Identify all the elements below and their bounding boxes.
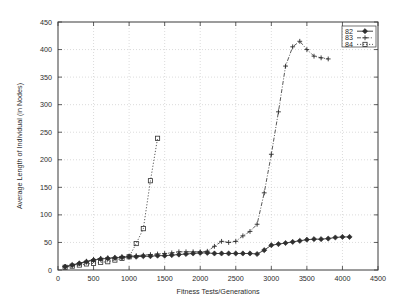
data-point-marker xyxy=(233,239,238,244)
x-tick-label: 500 xyxy=(88,274,100,283)
y-tick-label: 250 xyxy=(40,128,52,137)
chart-legend: 828384 xyxy=(342,26,376,49)
series-84 xyxy=(63,136,160,269)
data-point-marker xyxy=(262,190,267,195)
x-tick-label: 4500 xyxy=(370,274,386,283)
data-point-marker xyxy=(219,239,224,244)
x-tick-label: 3500 xyxy=(299,274,315,283)
y-tick-label: 150 xyxy=(40,183,52,192)
data-point-marker xyxy=(240,251,245,256)
data-point-marker xyxy=(311,237,316,242)
series-line-84 xyxy=(65,138,157,267)
data-point-marker xyxy=(340,234,345,239)
y-tick-label: 0 xyxy=(48,266,52,275)
data-point-marker xyxy=(226,251,231,256)
data-point-marker xyxy=(363,35,368,40)
data-point-marker xyxy=(255,251,260,256)
x-axis-tick-labels: 050010001500200025003000350040004500 xyxy=(56,274,386,283)
data-point-marker xyxy=(269,243,274,248)
data-series-group xyxy=(63,39,353,269)
data-point-marker xyxy=(247,251,252,256)
y-tick-label: 300 xyxy=(40,100,52,109)
data-point-marker xyxy=(276,109,281,114)
y-tick-label: 50 xyxy=(44,238,52,247)
data-point-marker xyxy=(283,240,288,245)
data-point-marker xyxy=(362,29,367,34)
data-point-marker xyxy=(326,57,331,62)
data-point-marker xyxy=(347,234,352,239)
data-point-marker xyxy=(319,55,324,60)
series-83 xyxy=(63,39,331,269)
data-point-marker xyxy=(212,251,217,256)
data-point-marker xyxy=(333,235,338,240)
y-tick-label: 350 xyxy=(40,73,52,82)
data-point-marker xyxy=(283,64,288,69)
data-point-marker xyxy=(70,263,75,268)
x-tick-label: 3000 xyxy=(263,274,279,283)
series-line-83 xyxy=(65,41,328,266)
x-tick-label: 2000 xyxy=(192,274,208,283)
data-point-marker xyxy=(269,152,274,157)
data-point-marker xyxy=(219,251,224,256)
y-tick-label: 100 xyxy=(40,210,52,219)
y-tick-label: 400 xyxy=(40,45,52,54)
data-point-marker xyxy=(262,248,267,253)
x-tick-label: 1000 xyxy=(121,274,137,283)
x-tick-label: 2500 xyxy=(228,274,244,283)
data-point-marker xyxy=(326,236,331,241)
y-axis-tick-labels: 050100150200250300350400450 xyxy=(40,18,52,275)
data-point-marker xyxy=(212,244,217,249)
y-tick-label: 450 xyxy=(40,18,52,27)
data-point-marker xyxy=(304,47,309,52)
data-point-marker xyxy=(134,241,138,245)
data-point-marker xyxy=(233,251,238,256)
x-tick-label: 0 xyxy=(56,274,60,283)
x-axis-title: Fitness Tests/Generations xyxy=(177,287,260,296)
x-tick-label: 4000 xyxy=(334,274,350,283)
chart-container: 050100150200250300350400450 050010001500… xyxy=(0,0,396,305)
data-point-marker xyxy=(226,240,231,245)
y-tick-label: 200 xyxy=(40,155,52,164)
y-axis-title: Average Length of Individual (in Nodes) xyxy=(15,83,24,209)
data-point-marker xyxy=(319,237,324,242)
x-tick-label: 1500 xyxy=(157,274,173,283)
data-point-marker xyxy=(304,237,309,242)
line-chart: 050100150200250300350400450 050010001500… xyxy=(0,0,396,305)
legend-label-84: 84 xyxy=(345,40,353,49)
data-point-marker xyxy=(290,239,295,244)
